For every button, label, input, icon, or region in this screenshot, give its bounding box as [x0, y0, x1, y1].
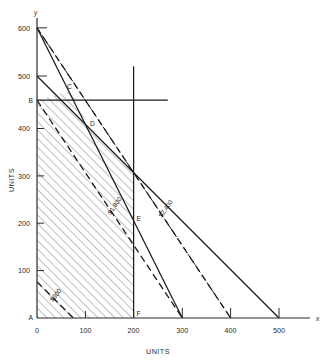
- y-tick-label-600: 600: [18, 24, 30, 33]
- vertex-label-E: E: [137, 215, 142, 222]
- vertex-label-A: A: [29, 314, 34, 321]
- x-tick-label-300: 300: [176, 326, 188, 335]
- x-tick-label-0: 0: [35, 326, 39, 335]
- x-tick-label-200: 200: [128, 326, 140, 335]
- linear-programming-chart: y x 600 500 400 300 200 100 0 100 200 30…: [0, 0, 328, 362]
- vertex-label-F: F: [137, 310, 141, 317]
- y-tick-label-200: 200: [18, 219, 30, 228]
- x-tick-label-500: 500: [273, 326, 285, 335]
- x-axis-name: x: [315, 315, 320, 322]
- vertex-label-B: B: [29, 97, 34, 104]
- y-tick-label-100: 100: [18, 266, 30, 275]
- y-tick-label-500: 500: [18, 72, 30, 81]
- y-tick-label-400: 400: [18, 124, 30, 133]
- vertex-label-D: D: [90, 120, 95, 127]
- plot-area: y x 600 500 400 300 200 100 0 100 200 30…: [7, 9, 320, 356]
- x-tick-label-100: 100: [79, 326, 91, 335]
- y-tick-label-300: 300: [18, 172, 30, 181]
- x-axis-title: UNITS: [146, 347, 170, 356]
- x-tick-label-400: 400: [225, 326, 237, 335]
- lp-graph-figure: y x 600 500 400 300 200 100 0 100 200 30…: [0, 0, 328, 362]
- isocost-label-2400: $2,400: [157, 198, 174, 218]
- y-axis-name: y: [33, 9, 38, 17]
- y-axis-title: UNITS: [7, 168, 16, 192]
- vertex-label-C: C: [67, 83, 72, 90]
